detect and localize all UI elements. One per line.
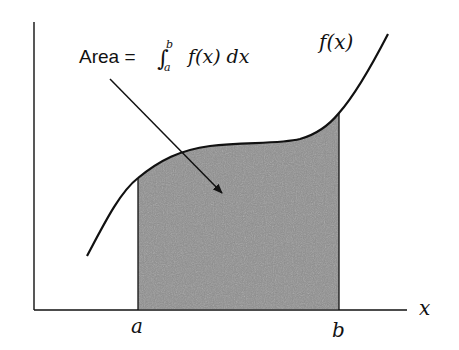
integral-area-diagram: Area = ∫ b a f(x) dx f(x) x a b: [0, 0, 459, 350]
integral-upper-limit: b: [166, 38, 173, 51]
area-label-prefix: Area =: [79, 46, 136, 67]
upper-bound-label: b: [332, 318, 345, 342]
shaded-area-region: [138, 113, 339, 309]
integral-lower-limit: a: [164, 61, 171, 74]
curve-label: f(x): [317, 30, 353, 54]
x-axis-label: x: [419, 296, 430, 320]
lower-bound-label: a: [131, 314, 143, 338]
integrand: f(x) dx: [186, 45, 250, 67]
area-annotation: Area = ∫ b a f(x) dx: [79, 38, 250, 74]
